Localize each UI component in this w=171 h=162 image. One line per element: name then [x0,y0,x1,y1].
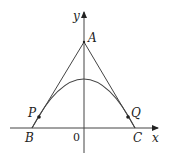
label-Q: Q [131,106,141,120]
origin-label: 0 [73,131,80,144]
point-Q [126,115,130,119]
point-P [37,115,41,119]
parabola-tangent-diagram: y x 0 A B C P Q [0,0,171,162]
label-A: A [87,31,97,45]
label-P: P [27,106,37,120]
y-axis-label: y [72,9,80,23]
point-A [83,41,85,43]
label-C: C [133,131,142,145]
label-B: B [24,131,34,145]
x-axis-label: x [152,131,159,145]
